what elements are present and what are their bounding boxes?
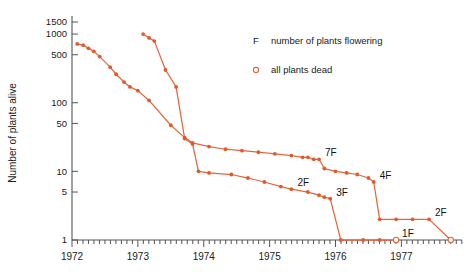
data-point: [273, 152, 277, 156]
data-point: [334, 169, 338, 173]
y-axis-tick-labels: 15001000500100501051: [46, 16, 67, 245]
data-point: [87, 46, 91, 50]
survivorship-chart: 15001000500100501051 1972197319741975197…: [0, 0, 472, 273]
data-point: [174, 85, 178, 89]
data-point: [361, 238, 365, 242]
data-point: [122, 80, 126, 84]
data-point: [427, 217, 431, 221]
data-point: [207, 171, 211, 175]
x-tick-label: 1974: [193, 251, 216, 262]
data-point: [191, 142, 195, 146]
y-tick-label: 1: [62, 234, 67, 245]
x-tick-label: 1973: [127, 251, 150, 262]
y-tick-label: 100: [51, 97, 67, 108]
legend-flowering-label: number of plants flowering: [271, 35, 382, 46]
y-axis-title: Number of plants alive: [7, 83, 18, 183]
data-point: [301, 155, 305, 159]
legend-dead-label: all plants dead: [271, 64, 332, 75]
data-point: [183, 137, 187, 141]
y-tick-label: 50: [56, 118, 67, 129]
x-tick-label: 1976: [324, 251, 347, 262]
data-point: [289, 187, 293, 191]
x-tick-label: 1972: [61, 251, 84, 262]
data-point: [240, 149, 244, 153]
data-point: [306, 155, 310, 159]
data-point: [257, 150, 261, 154]
chart-figure: 15001000500100501051 1972197319741975197…: [0, 0, 472, 273]
y-axis-ticks: [72, 22, 78, 240]
data-point: [136, 89, 140, 93]
data-point: [394, 217, 398, 221]
curve-cohort-1972: [77, 44, 451, 240]
data-point: [345, 171, 349, 175]
legend-flowering-marker: F: [253, 35, 259, 46]
data-point: [224, 147, 228, 151]
data-point: [152, 39, 156, 43]
y-tick-label: 1000: [46, 28, 67, 39]
data-point: [372, 180, 376, 184]
data-point: [114, 72, 118, 76]
data-point: [306, 190, 310, 194]
data-curves: [77, 34, 451, 240]
data-point: [98, 55, 102, 59]
data-point: [322, 195, 326, 199]
y-tick-label: 5: [62, 186, 67, 197]
data-point: [312, 157, 316, 161]
data-point: [230, 173, 234, 177]
data-point: [141, 32, 145, 36]
data-point: [279, 185, 283, 189]
x-tick-label: 1977: [390, 251, 413, 262]
data-point: [169, 123, 173, 127]
data-point: [207, 145, 211, 149]
x-tick-label: 1975: [259, 251, 282, 262]
data-point: [339, 238, 343, 242]
data-point: [378, 238, 382, 242]
x-axis-tick-labels: 197219731974197519761977: [61, 251, 413, 262]
data-point: [289, 154, 293, 158]
data-point: [322, 167, 326, 171]
data-point: [75, 42, 79, 46]
flowering-annotation: 1F: [402, 228, 414, 239]
data-point: [197, 169, 201, 173]
data-point: [81, 43, 85, 47]
data-point: [378, 217, 382, 221]
data-point: [262, 180, 266, 184]
flowering-annotation: 4F: [380, 170, 392, 181]
y-tick-label: 1500: [46, 16, 67, 27]
legend-dead-icon: [253, 67, 258, 72]
data-point: [108, 65, 112, 69]
data-point: [246, 176, 250, 180]
data-point: [128, 85, 132, 89]
chart-legend: F number of plants flowering all plants …: [253, 35, 382, 75]
y-tick-label: 500: [51, 49, 67, 60]
data-point: [317, 157, 321, 161]
data-point: [92, 49, 96, 53]
curve-cohort-1973: [143, 34, 396, 240]
data-point: [355, 173, 359, 177]
flowering-annotation: 7F: [325, 147, 337, 158]
data-point: [147, 36, 151, 40]
data-point: [367, 176, 371, 180]
data-point: [147, 99, 151, 103]
flowering-annotation: 2F: [297, 177, 309, 188]
data-point: [317, 193, 321, 197]
y-tick-label: 10: [56, 166, 67, 177]
data-point: [411, 217, 415, 221]
flowering-annotation: 3F: [336, 187, 348, 198]
x-axis-ticks: [72, 240, 462, 247]
flowering-annotation: 2F: [435, 207, 447, 218]
all-plants-dead-marker: [448, 237, 453, 242]
all-plants-dead-marker: [393, 237, 398, 242]
data-point: [328, 197, 332, 201]
data-point: [164, 68, 168, 72]
